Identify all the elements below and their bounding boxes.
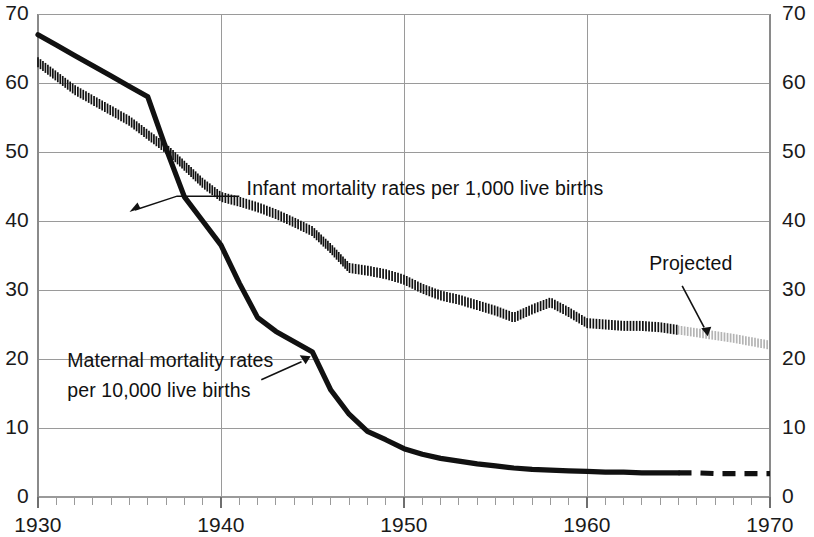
y-axis-left-tick-50: 50 [5, 139, 29, 163]
y-axis-left-tick-40: 40 [5, 208, 29, 232]
projected-annotation: Projected [649, 252, 732, 275]
y-axis-left-tick-60: 60 [5, 70, 29, 94]
x-axis-tick-1930: 1930 [0, 513, 78, 537]
y-axis-left-tick-10: 10 [5, 415, 29, 439]
maternal-annotation-line1: Maternal mortality rates [67, 345, 273, 375]
maternal-annotation-line2: per 10,000 live births [67, 375, 273, 405]
y-axis-right-tick-50: 50 [782, 139, 806, 163]
y-axis-right-tick-20: 20 [782, 346, 806, 370]
y-axis-right-tick-70: 70 [782, 1, 806, 25]
y-axis-right-tick-10: 10 [782, 415, 806, 439]
x-axis-tick-1950: 1950 [364, 513, 444, 537]
y-axis-right-tick-30: 30 [782, 277, 806, 301]
maternal-series-annotation: Maternal mortality rates per 10,000 live… [67, 345, 273, 405]
y-axis-right-tick-60: 60 [782, 70, 806, 94]
y-axis-left-tick-70: 70 [5, 1, 29, 25]
mortality-rates-chart: 706050403020100 706050403020100 19301940… [0, 0, 814, 537]
y-axis-right-tick-0: 0 [782, 484, 794, 508]
y-axis-left-tick-0: 0 [17, 484, 29, 508]
y-axis-left-tick-20: 20 [5, 346, 29, 370]
y-axis-right-tick-40: 40 [782, 208, 806, 232]
x-axis-tick-1960: 1960 [547, 513, 627, 537]
infant-series-annotation: Infant mortality rates per 1,000 live bi… [247, 177, 604, 200]
x-axis-tick-1940: 1940 [181, 513, 261, 537]
x-axis-tick-1970: 1970 [730, 513, 810, 537]
y-axis-left-tick-30: 30 [5, 277, 29, 301]
